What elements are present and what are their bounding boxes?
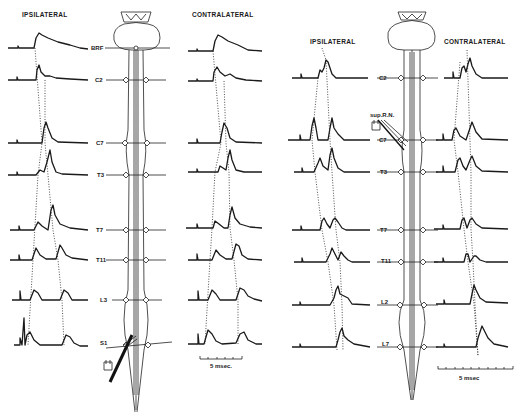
level-label-s1: S1 bbox=[100, 340, 108, 346]
trace-ipsi-l3 bbox=[12, 290, 88, 300]
trace-ipsi-s1 bbox=[14, 318, 88, 346]
trace-r-ipsi-l2 bbox=[292, 286, 370, 305]
trace-r-ipsi-t11 bbox=[294, 248, 370, 262]
right-scale-bar: 5 msec bbox=[438, 366, 513, 381]
trace-contra-t7 bbox=[186, 207, 262, 228]
trace-contra-s1 bbox=[188, 330, 262, 344]
trace-r-contra-c2 bbox=[444, 58, 508, 78]
contra-latency-line-1 bbox=[205, 51, 221, 344]
right-panel: IPSILATERAL CONTRALATERAL C2 C7 T3 T7 T1… bbox=[288, 12, 513, 400]
trace-r-contra-t11 bbox=[434, 254, 508, 262]
left-contralateral-traces bbox=[186, 35, 262, 344]
level-label-c7: C7 bbox=[96, 140, 104, 146]
right-ipsilateral-header: IPSILATERAL bbox=[310, 38, 355, 45]
evoked-potential-figure: IPSILATERAL CONTRALATERAL BRF C2 C7 T3 T… bbox=[0, 0, 524, 414]
r-level-label-l7: L7 bbox=[382, 341, 390, 347]
trace-r-ipsi-l7 bbox=[292, 328, 370, 347]
level-label-l3: L3 bbox=[100, 297, 108, 303]
level-label-t11: T11 bbox=[96, 257, 107, 263]
stimulating-electrode-sup-rn bbox=[372, 120, 408, 150]
level-label-t7: T7 bbox=[96, 227, 104, 233]
trace-r-ipsi-c2 bbox=[292, 60, 368, 78]
trace-r-contra-t3 bbox=[436, 156, 508, 172]
r-level-label-l2: L2 bbox=[381, 299, 389, 305]
trace-r-contra-c7 bbox=[436, 122, 508, 140]
left-scale-bar: 5 msec. bbox=[200, 356, 242, 369]
trace-contra-l3 bbox=[188, 288, 262, 301]
left-level-labels: BRF C2 C7 T3 T7 T11 L3 S1 bbox=[91, 45, 108, 346]
right-contralateral-header: CONTRALATERAL bbox=[444, 38, 506, 45]
trace-contra-t3 bbox=[188, 150, 262, 172]
level-label-t3: T3 bbox=[97, 172, 105, 178]
r-contra-latency-line-2 bbox=[467, 50, 478, 356]
stimulating-electrode-s1 bbox=[104, 335, 137, 382]
trace-ipsi-c2 bbox=[8, 65, 88, 80]
r-nerve-roots bbox=[377, 78, 438, 347]
level-label-brf: BRF bbox=[91, 45, 104, 51]
ganglia bbox=[122, 77, 151, 348]
trace-contra-t11 bbox=[188, 244, 262, 260]
left-spinal-cord-diagram bbox=[104, 12, 172, 412]
r-contra-latency-line-1 bbox=[454, 62, 478, 356]
right-ipsilateral-traces bbox=[288, 48, 370, 350]
right-contralateral-traces bbox=[434, 50, 508, 356]
left-scale-label: 5 msec. bbox=[210, 363, 232, 369]
level-label-c2: C2 bbox=[95, 77, 103, 83]
left-panel: IPSILATERAL CONTRALATERAL BRF C2 C7 T3 T… bbox=[8, 11, 262, 412]
trace-contra-c7 bbox=[188, 123, 262, 143]
r-cerebellum-outline bbox=[388, 21, 435, 51]
trace-ipsi-t11 bbox=[10, 245, 88, 260]
trace-ipsi-t7 bbox=[10, 205, 88, 230]
nerve-roots bbox=[106, 80, 172, 348]
trace-ipsi-c7 bbox=[8, 122, 88, 143]
right-scale-label: 5 msec bbox=[459, 375, 480, 381]
brainstem-top bbox=[121, 12, 151, 22]
trace-contra-c2 bbox=[188, 67, 262, 81]
trace-contra-brf bbox=[188, 35, 262, 51]
trace-r-ipsi-c7 bbox=[288, 118, 370, 140]
left-contralateral-header: CONTRALATERAL bbox=[192, 11, 254, 18]
left-ipsilateral-header: IPSILATERAL bbox=[22, 11, 67, 18]
trace-r-ipsi-t7 bbox=[292, 218, 370, 230]
right-level-labels: C2 C7 T3 T7 T11 L2 L7 sup.R.N. bbox=[370, 75, 395, 347]
sup-rn-label: sup.R.N. bbox=[370, 112, 395, 118]
r-level-label-t11: T11 bbox=[381, 258, 392, 264]
left-ipsilateral-traces bbox=[8, 33, 88, 346]
r-ipsi-latency-line-1 bbox=[312, 78, 337, 350]
trace-r-contra-l7 bbox=[436, 326, 508, 347]
trace-ipsi-brf bbox=[8, 33, 88, 49]
trace-r-ipsi-t3 bbox=[294, 148, 370, 172]
